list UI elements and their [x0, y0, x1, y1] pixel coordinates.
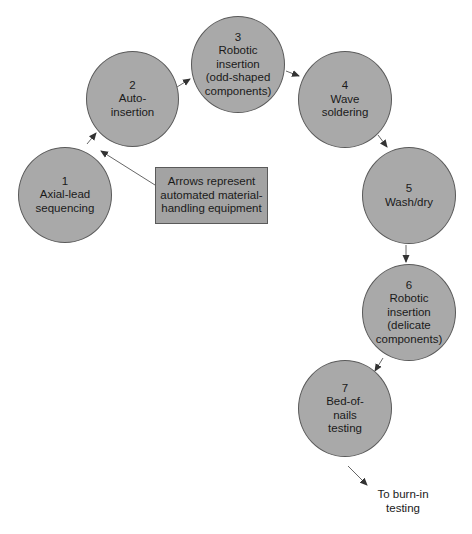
node-number: 3	[235, 31, 241, 45]
node-label-line: Auto-	[119, 92, 147, 106]
legend-callout-box: Arrows represent automated material- han…	[155, 167, 268, 224]
arrow-6-to-7	[375, 358, 383, 371]
legend-line: automated material-	[160, 189, 262, 203]
arrow-1-to-2	[87, 133, 96, 144]
node-number: 2	[129, 79, 135, 93]
legend-line: Arrows represent	[168, 175, 256, 189]
node-label-line: insertion	[387, 306, 430, 320]
node-label-line: Wave	[331, 93, 360, 107]
arrow-2-to-3	[177, 79, 190, 87]
node-number: 1	[62, 175, 68, 189]
node-label-line: (delicate	[387, 319, 430, 333]
node-label-line: sequencing	[36, 202, 95, 216]
node-label-line: Wash/dry	[385, 196, 433, 210]
node-label-line: (odd-shaped	[206, 71, 271, 85]
node-label-line: components)	[376, 333, 442, 347]
node-label-line: soldering	[322, 106, 369, 120]
arrow-3-to-4	[286, 71, 299, 76]
node-label-line: Robotic	[219, 44, 258, 58]
node-1-axial-lead-sequencing: 1 Axial-lead sequencing	[18, 147, 112, 243]
node-label-line: Axial-lead	[40, 188, 91, 202]
legend-line: handling equipment	[161, 202, 261, 216]
node-label-line: components)	[205, 85, 271, 99]
node-2-auto-insertion: 2 Auto- insertion	[86, 51, 179, 147]
exit-label-burn-in-testing: To burn-in testing	[370, 487, 436, 515]
node-label-line: testing	[328, 422, 362, 436]
node-4-wave-soldering: 4 Wave soldering	[298, 51, 392, 148]
node-number: 6	[406, 279, 412, 293]
node-6-robotic-insertion-delicate: 6 Robotic insertion (delicate components…	[362, 264, 456, 361]
node-number: 5	[406, 182, 412, 196]
arrow-7-to-exit	[348, 466, 367, 485]
node-7-bed-of-nails-testing: 7 Bed-of- nails testing	[298, 360, 392, 457]
node-number: 4	[342, 79, 348, 93]
node-label-line: insertion	[216, 58, 259, 72]
exit-label-line: To burn-in	[370, 487, 436, 501]
node-3-robotic-insertion-odd-shaped: 3 Robotic insertion (odd-shaped componen…	[191, 16, 285, 113]
node-label-line: nails	[333, 409, 357, 423]
node-number: 7	[342, 382, 348, 396]
node-5-wash-dry: 5 Wash/dry	[362, 147, 456, 244]
node-label-line: Bed-of-	[326, 395, 364, 409]
node-label-line: insertion	[111, 106, 154, 120]
arrow-4-to-5	[378, 135, 387, 147]
exit-label-line: testing	[370, 501, 436, 515]
node-label-line: Robotic	[390, 292, 429, 306]
